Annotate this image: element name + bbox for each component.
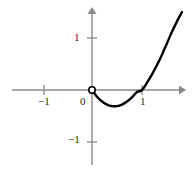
function-curve [92,12,182,106]
origin-label: 0 [80,96,86,107]
open-circle-marker [89,87,95,93]
y-axis-arrowhead [88,7,97,14]
x-axis-arrowhead [179,86,186,95]
graph-figure: −1 0 1 1 −1 [0,0,196,173]
y-axis-tick-label-neg1: −1 [68,134,80,145]
x-axis-tick-label-1: 1 [140,96,146,107]
plot-canvas [0,0,196,173]
y-axis-tick-label-1: 1 [74,32,80,43]
x-axis-tick-label-neg1: −1 [38,96,50,107]
